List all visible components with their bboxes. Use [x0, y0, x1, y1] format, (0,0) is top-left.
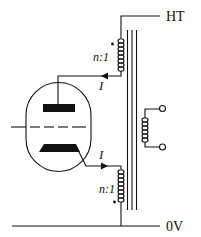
circuit-diagram: HT 0V n:1 n:1 I I: [0, 0, 201, 237]
anode-plate: [43, 104, 75, 112]
ratio-label-lower: n:1: [99, 182, 115, 196]
transformer-core: [128, 30, 137, 210]
anode-wire: [58, 71, 121, 105]
upper-primary-coil: [118, 39, 124, 71]
ht-label: HT: [166, 9, 185, 24]
output-terminal-bottom: [160, 144, 166, 150]
cathode: [39, 144, 80, 152]
current-arrow-lower: [101, 163, 108, 170]
zero-volt-label: 0V: [166, 219, 183, 234]
polarity-dot-upper: [111, 43, 114, 46]
ratio-label-upper: n:1: [93, 50, 109, 64]
current-label-upper: I: [98, 78, 104, 93]
current-label-lower: I: [98, 147, 104, 162]
lower-primary-coil: [118, 170, 124, 202]
ht-wire: [121, 16, 160, 38]
output-terminal-top: [160, 106, 166, 112]
secondary-coil: [142, 109, 160, 147]
polarity-dot-lower: [113, 201, 116, 204]
